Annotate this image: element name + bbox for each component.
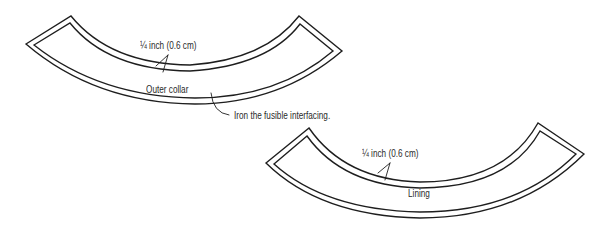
- iron-interfacing-callout: Iron the fusible interfacing.: [234, 110, 330, 122]
- collar-diagram: ¼ inch (0.6 cm) Outer collar Iron the fu…: [0, 0, 607, 234]
- outer-collar-label: Outer collar: [146, 84, 188, 96]
- lining-seam-label: ¼ inch (0.6 cm): [362, 148, 419, 160]
- lining-label: Lining: [408, 188, 430, 200]
- outer-collar-seam-label: ¼ inch (0.6 cm): [140, 40, 197, 52]
